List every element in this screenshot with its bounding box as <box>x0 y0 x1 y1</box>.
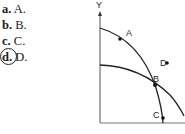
y-axis-label: Y <box>96 0 102 10</box>
point-a <box>118 37 122 41</box>
point-a-label: A <box>126 28 132 38</box>
y-axis-arrow-icon <box>98 11 102 16</box>
ppf-diagram: Y A B C D <box>0 0 185 134</box>
point-c-label: C <box>153 110 160 120</box>
point-b-label: B <box>153 74 159 84</box>
ppf-curve-2 <box>100 65 184 116</box>
point-d-label: D <box>160 58 167 68</box>
point-c <box>161 116 165 120</box>
